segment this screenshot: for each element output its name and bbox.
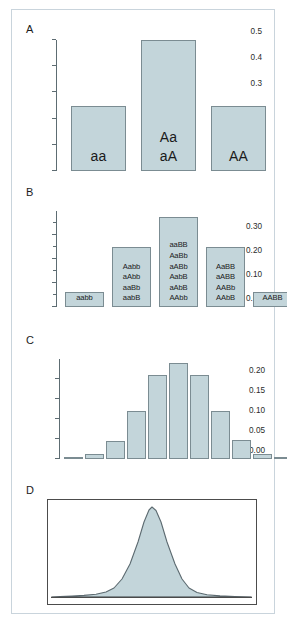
panel-c: C 0.00 0.05 0.10 0.15 0.20 <box>12 331 274 481</box>
panel-c-tick-4 <box>55 378 59 379</box>
genotype-label: Aa <box>142 128 195 147</box>
genotype-label: AaBb <box>160 251 197 262</box>
genotype-label: AAbb <box>160 293 197 304</box>
bar <box>64 457 83 459</box>
bar <box>190 375 209 459</box>
bar: AaBB aABB AABb AAbB <box>206 247 245 307</box>
panel-a-tick-3 <box>52 91 56 92</box>
panel-a-tick-label-4: 0.4 <box>251 54 262 62</box>
panel-b-minor-tick-1 <box>53 270 56 271</box>
panel-b-y-axis <box>56 211 57 307</box>
panel-a-y-axis <box>56 40 57 171</box>
panel-c-tick-3 <box>55 398 59 399</box>
panel-a-tick-0 <box>52 170 56 171</box>
bar: aabb <box>65 292 104 307</box>
genotype-label: aabb <box>66 293 103 304</box>
bar <box>127 411 146 459</box>
bar: aa <box>71 106 126 172</box>
genotype-label: aabB <box>113 293 150 304</box>
bar <box>148 375 167 459</box>
genotype-label: AABB <box>254 293 287 304</box>
bar-genotype-labels: aa <box>72 147 125 166</box>
panel-c-tick-label-4: 0.20 <box>249 367 265 375</box>
panel-b-tick-label-3: 0.30 <box>246 223 262 231</box>
panel-a-tick-4 <box>52 65 56 66</box>
panel-b-letter: B <box>26 186 34 198</box>
bar-genotype-labels: Aabb aAbb aaBb aabB <box>113 262 150 304</box>
genotype-label: aABb <box>160 262 197 273</box>
genotype-label: aaBB <box>160 240 197 251</box>
panel-b-tick-label-2: 0.20 <box>246 247 262 255</box>
bar-genotype-labels: aabb <box>66 293 103 304</box>
panel-c-tick-1 <box>55 438 59 439</box>
panel-a: A 0.0 0.1 0.2 0.3 0.4 0.5 aa <box>12 18 274 183</box>
genotype-label: AABb <box>207 283 244 294</box>
panel-c-tick-label-1: 0.05 <box>249 427 265 435</box>
bar: Aabb aAbb aaBb aabB <box>112 247 151 307</box>
panel-b-tick-2 <box>52 258 56 259</box>
bar: AA <box>211 106 266 172</box>
figure-frame: A 0.0 0.1 0.2 0.3 0.4 0.5 aa <box>11 9 275 614</box>
panel-c-tick-0 <box>55 458 59 459</box>
panel-b-tick-3 <box>52 234 56 235</box>
panel-b-minor-tick-3 <box>53 222 56 223</box>
panel-d-letter: D <box>26 484 34 496</box>
bar <box>169 363 188 459</box>
panel-c-letter: C <box>26 334 34 346</box>
panel-a-tick-label-3: 0.3 <box>251 80 262 88</box>
panel-c-tick-2 <box>55 418 59 419</box>
bar <box>106 441 125 459</box>
genotype-label: aa <box>72 147 125 166</box>
panel-b-minor-tick-2 <box>53 246 56 247</box>
bar <box>85 454 104 459</box>
panel-d: D <box>12 481 274 613</box>
panel-a-tick-1 <box>52 144 56 145</box>
panel-b-tick-label-1: 0.10 <box>246 271 262 279</box>
bar-genotype-labels: AaBB aABB AABb AAbB <box>207 262 244 304</box>
panel-c-y-axis <box>59 359 60 459</box>
genotype-label: Aabb <box>113 262 150 273</box>
panel-a-plot-area: 0.0 0.1 0.2 0.3 0.4 0.5 aa Aa aA <box>56 40 268 171</box>
genotype-label: aABB <box>207 272 244 283</box>
bar-genotype-labels: AA <box>212 147 265 166</box>
bar <box>232 440 251 459</box>
genotype-label: AabB <box>160 272 197 283</box>
genotype-label: AaBB <box>207 262 244 273</box>
bar <box>211 411 230 459</box>
genotype-label: AAbB <box>207 293 244 304</box>
bar: aaBB AaBb aABb AabB aAbB AAbb <box>159 217 198 307</box>
panel-b-tick-1 <box>52 282 56 283</box>
bar-genotype-labels: aaBB AaBb aABb AabB aAbB AAbb <box>160 240 197 304</box>
panel-d-plot-box <box>47 499 257 605</box>
panel-a-tick-label-5: 0.5 <box>251 28 262 36</box>
genotype-label: aAbb <box>113 272 150 283</box>
panel-b-tick-0 <box>52 306 56 307</box>
normal-distribution-curve <box>48 500 255 603</box>
bar <box>274 457 287 459</box>
panel-c-tick-label-3: 0.15 <box>249 387 265 395</box>
panel-b: B 0.00 0.10 0.20 0.30 aabb <box>12 183 274 331</box>
bar <box>253 454 272 459</box>
bar: AABB <box>253 292 287 307</box>
panel-c-plot-area: 0.00 0.05 0.10 0.15 0.20 <box>59 359 271 459</box>
panel-b-plot-area: 0.00 0.10 0.20 0.30 aabb Aabb aAbb aaB <box>56 211 268 307</box>
figure-root: A 0.0 0.1 0.2 0.3 0.4 0.5 aa <box>0 0 287 629</box>
genotype-label: aaBb <box>113 283 150 294</box>
genotype-label: aAbB <box>160 283 197 294</box>
panel-b-minor-tick-0 <box>53 294 56 295</box>
panel-a-tick-5 <box>52 39 56 40</box>
panel-c-tick-label-2: 0.10 <box>249 407 265 415</box>
genotype-label: AA <box>212 147 265 166</box>
bar: Aa aA <box>141 40 196 171</box>
genotype-label: aA <box>142 147 195 166</box>
panel-a-tick-2 <box>52 118 56 119</box>
bar-genotype-labels: AABB <box>254 293 287 304</box>
panel-a-letter: A <box>26 23 34 35</box>
bar-genotype-labels: Aa aA <box>142 128 195 166</box>
